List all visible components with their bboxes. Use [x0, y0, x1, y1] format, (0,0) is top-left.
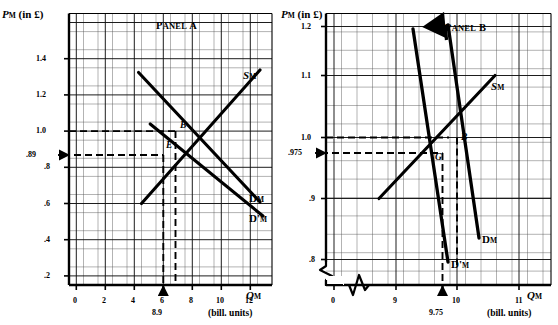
x-axis-subscript: M: [535, 292, 542, 301]
panel-a-x-axis-label: QM: [246, 289, 261, 301]
panel-b-plot: [279, 0, 558, 325]
panel-b-xtick-11: 11: [515, 296, 523, 305]
panel-b-xtick-10: 10: [452, 296, 460, 305]
panel-b-title-letter: B: [479, 22, 486, 33]
x-axis-symbol: Q: [527, 289, 535, 301]
plot-frame: [326, 14, 551, 286]
panel-a-xtick-0: 0: [73, 296, 77, 305]
panel-a-title-letter: A: [189, 20, 197, 31]
y-axis-units: (in £): [298, 8, 323, 20]
panel-a-y-axis-label: PM (in £): [2, 8, 43, 20]
y-axis-subscript: M: [288, 11, 295, 20]
panel-b-label-dm-prime: D'M: [451, 258, 469, 270]
panel-a-xtick-8: 8: [189, 296, 193, 305]
panel-b-x-units: (bill. units): [487, 308, 531, 318]
panel-a-xtick-6: 6: [160, 296, 164, 305]
x-axis-subscript: M: [254, 292, 261, 301]
panel-a-title-anel: ANEL: [163, 21, 187, 31]
break-mask: [326, 276, 344, 285]
panel-a-x-units: (bill. units): [208, 308, 252, 318]
panel-b-label-sm: SM: [491, 80, 504, 92]
panel-a-label-dm-prime: D'M: [249, 212, 267, 224]
y-axis-symbol: P: [2, 8, 9, 20]
x-axis-symbol: Q: [246, 289, 254, 301]
panel-b-y-axis-label: PM (in £): [281, 8, 322, 20]
panel-a-title: PANEL A: [156, 20, 197, 31]
panel-b-ytick-1.2: 1.2: [301, 22, 311, 31]
minor-gridlines: [326, 14, 551, 286]
panel-b-title-anel: ANEL: [452, 23, 476, 33]
panel-a-point-e: E: [166, 140, 172, 150]
panel-b-ytick-1.1: 1.1: [301, 71, 311, 80]
panel-b-point-g: G: [435, 152, 442, 162]
panel-b-xtick-highlight: 9.75: [429, 308, 443, 317]
panel-b-x-axis-label: QM: [527, 289, 542, 301]
panel-a-xtick-4: 4: [131, 296, 135, 305]
panel-a-ytick-1.4: 1.4: [36, 54, 46, 63]
panel-b-label-dm: DM: [482, 233, 497, 245]
panel-a-ytick-1.2: 1.2: [36, 90, 46, 99]
panel-a-label-dm: DM: [249, 192, 264, 204]
economics-figure: PM (in £) PANEL A 1.4 1.2 1.0 .89 .8 .6 …: [0, 0, 558, 325]
panel-b-ytick-.9: .9: [309, 194, 315, 203]
panel-b-xtick-9: 9: [393, 296, 397, 305]
y-axis-symbol: P: [281, 8, 288, 20]
panel-a-label-sm: SM: [243, 69, 256, 81]
panel-a: PM (in £) PANEL A 1.4 1.2 1.0 .89 .8 .6 …: [0, 0, 279, 325]
demand-curve-dm-prime: [150, 124, 263, 216]
demand-curve-dm-prime: [413, 29, 448, 262]
panel-a-xtick-2: 2: [102, 296, 106, 305]
panel-b-point-b: B: [461, 132, 467, 142]
panel-a-ytick-.8: .8: [44, 162, 50, 171]
major-gridlines: [326, 14, 551, 286]
panel-a-point-b: B: [180, 120, 186, 130]
panel-b-ytick-1.0: 1.0: [301, 133, 311, 142]
panel-b: PM (in £) PANEL B 1.2 1.1 1.0 .975 .9 .8…: [279, 0, 558, 325]
panel-a-plot: [0, 0, 279, 325]
panel-b-ytick-.8: .8: [309, 255, 315, 264]
panel-b-ytick-highlight: .975: [288, 148, 302, 157]
panel-a-ytick-.2: .2: [44, 271, 50, 280]
panel-a-xtick-10: 10: [216, 296, 224, 305]
y-axis-subscript: M: [9, 11, 16, 20]
y-axis-units: (in £): [19, 8, 44, 20]
panel-b-title-p: P: [445, 22, 452, 33]
panel-a-ytick-.4: .4: [44, 235, 50, 244]
panel-a-xtick-highlight: 8.9: [152, 308, 162, 317]
panel-b-title: PANEL B: [445, 22, 486, 33]
panel-a-ytick-highlight: .89: [26, 150, 36, 159]
panel-a-ytick-1.0: 1.0: [36, 126, 46, 135]
panel-b-xtick-0: 0: [331, 296, 335, 305]
panel-a-ytick-.6: .6: [44, 199, 50, 208]
panel-a-title-p: P: [156, 20, 163, 31]
equilibrium-guides: [63, 131, 176, 289]
